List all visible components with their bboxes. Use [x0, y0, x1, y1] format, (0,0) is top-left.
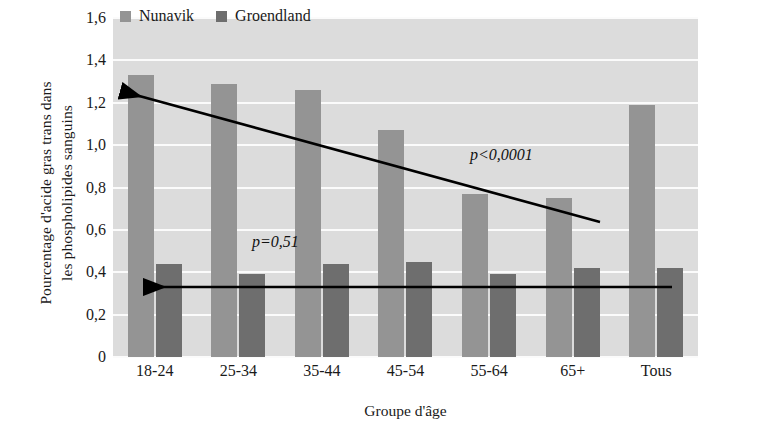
- y-axis-title-line-1: Pourcentage d'acide gras trans dans: [35, 81, 56, 304]
- x-tick-label: 18-24: [136, 362, 173, 380]
- x-tick-label: 45-54: [387, 362, 424, 380]
- x-tick-label: 25-34: [220, 362, 257, 380]
- x-tick-label: 55-64: [470, 362, 507, 380]
- legend-item-groendland: Groendland: [216, 8, 311, 24]
- bar-nunavik-65+: [546, 198, 572, 357]
- chart-legend: NunavikGroendland: [120, 8, 311, 24]
- bar-groendland-Tous: [657, 268, 683, 357]
- bar-group: [113, 18, 197, 357]
- y-tick-label: 0: [58, 349, 106, 365]
- x-axis-tick-labels: 18-2425-3435-4445-5455-6465+Tous: [113, 362, 698, 388]
- bar-chart-figure: Pourcentage d'acide gras trans dans les …: [0, 0, 780, 436]
- x-tick-label: Tous: [641, 362, 672, 380]
- legend-swatch-icon: [120, 11, 131, 22]
- y-axis-tick-labels: 00,20,40,60,81,01,21,41,6: [58, 0, 106, 436]
- y-tick-label: 1,6: [58, 10, 106, 26]
- y-tick-label: 0,4: [58, 264, 106, 280]
- bar-groendland-25-34: [239, 274, 265, 357]
- bar-group: [614, 18, 698, 357]
- plot-area: [113, 18, 698, 357]
- bar-groendland-18-24: [156, 264, 182, 357]
- bar-group: [364, 18, 448, 357]
- bar-groendland-65+: [574, 268, 600, 357]
- bar-nunavik-35-44: [295, 90, 321, 357]
- bar-nunavik-18-24: [128, 75, 154, 357]
- bar-group: [531, 18, 615, 357]
- y-tick-label: 0,8: [58, 180, 106, 196]
- bar-group: [280, 18, 364, 357]
- legend-label: Nunavik: [139, 8, 194, 24]
- bar-group: [447, 18, 531, 357]
- y-tick-label: 1,4: [58, 52, 106, 68]
- bar-group: [197, 18, 281, 357]
- x-tick-label: 35-44: [303, 362, 340, 380]
- x-tick-label: 65+: [560, 362, 585, 380]
- bar-groendland-45-54: [406, 262, 432, 357]
- legend-item-nunavik: Nunavik: [120, 8, 194, 24]
- bar-groendland-55-64: [490, 274, 516, 357]
- y-tick-label: 0,2: [58, 307, 106, 323]
- bar-nunavik-Tous: [629, 105, 655, 357]
- legend-label: Groendland: [235, 8, 311, 24]
- bar-nunavik-45-54: [378, 130, 404, 357]
- x-axis-title: Groupe d'âge: [113, 402, 698, 420]
- y-tick-label: 0,6: [58, 222, 106, 238]
- y-tick-label: 1,2: [58, 95, 106, 111]
- bar-groendland-35-44: [323, 264, 349, 357]
- bar-nunavik-25-34: [211, 84, 237, 357]
- legend-swatch-icon: [216, 11, 227, 22]
- bar-nunavik-55-64: [462, 194, 488, 357]
- y-tick-label: 1,0: [58, 137, 106, 153]
- bar-series-container: [113, 18, 698, 357]
